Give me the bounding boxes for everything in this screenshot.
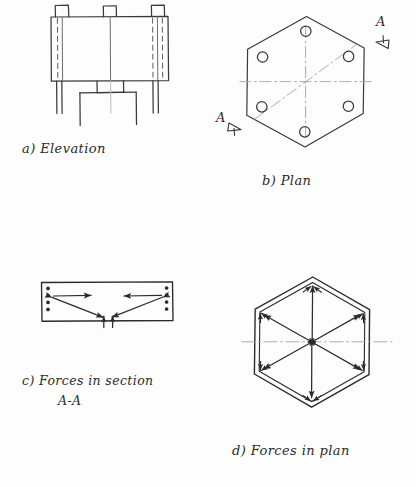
section-bolt-dot bbox=[46, 287, 50, 291]
section-bolt-dots-right bbox=[165, 286, 169, 311]
section-bolt-dot bbox=[165, 307, 169, 311]
section-force-arrow-horizontal-left bbox=[54, 295, 92, 296]
caption-figure-b: b) Plan bbox=[262, 172, 311, 191]
caption-figure-a: a) Elevation bbox=[22, 140, 106, 159]
plan-force-arrow-lower-right bbox=[315, 344, 360, 370]
section-bolt-dot bbox=[46, 294, 50, 298]
plan-force-arrow-upper-left bbox=[264, 315, 309, 340]
section-bolt-dot bbox=[165, 293, 169, 297]
plan-force-edge-arrow-bottom-left bbox=[303, 395, 311, 401]
sketch-canvas bbox=[0, 0, 416, 487]
figure-a-elevation bbox=[51, 5, 169, 125]
plan-force-edge-arrow-ul-up bbox=[261, 313, 269, 319]
caption-figure-c-line-1: c) Forces in section bbox=[22, 372, 154, 390]
elevation-stub-shelf bbox=[80, 92, 136, 93]
figure-d-plan-forces bbox=[242, 277, 392, 407]
section-mark-upper-right-arrow bbox=[376, 40, 389, 48]
section-force-arrow-diagonal-left bbox=[52, 297, 103, 317]
plan-force-edge-arrow-bottom-right bbox=[313, 396, 321, 402]
section-force-arrow-horizontal-right bbox=[124, 295, 162, 296]
caption-figure-c-line-2: A-A bbox=[58, 392, 81, 410]
plan-force-edge-arrow-lr-down bbox=[354, 365, 362, 370]
figure-b-plan bbox=[228, 17, 389, 148]
plan-force-edge-arrow-top-right bbox=[314, 287, 322, 293]
plan-bolt-hole-lower-right bbox=[343, 101, 353, 111]
caption-figure-d: d) Forces in plan bbox=[232, 442, 350, 461]
plan-force-edge-arrow-ur-up bbox=[355, 314, 363, 319]
figure-c-section-forces bbox=[42, 282, 174, 328]
section-mark-lower-left-tick bbox=[234, 128, 235, 135]
plan-force-arrow-upper-right bbox=[315, 315, 360, 341]
section-label-a-upper-right: A bbox=[376, 14, 385, 29]
elevation-tab-center bbox=[103, 6, 116, 17]
plan-force-edge-arrow-ll-down bbox=[261, 365, 269, 371]
section-bolt-dot bbox=[165, 300, 169, 304]
plan-bolt-hole-bottom bbox=[300, 127, 310, 137]
section-bolt-dot bbox=[165, 286, 169, 290]
section-bolt-dot bbox=[46, 308, 50, 312]
drawing-sheet: a) Elevation b) Plan c) Forces in sectio… bbox=[0, 0, 416, 487]
section-bolt-dot bbox=[46, 301, 50, 305]
section-label-a-lower-left: A bbox=[216, 110, 225, 125]
plan-bolt-hole-lower-left bbox=[257, 102, 267, 112]
section-force-arrow-diagonal-right bbox=[112, 297, 163, 317]
elevation-tab-right bbox=[151, 5, 164, 16]
plan-bolt-hole-upper-right bbox=[343, 51, 353, 61]
plan-force-arrow-lower-left bbox=[264, 344, 309, 369]
elevation-tab-left bbox=[55, 5, 69, 17]
section-mark-upper-right-tick bbox=[383, 36, 384, 43]
plan-bolt-hole-upper-left bbox=[257, 52, 267, 62]
section-bolt-dots-left bbox=[46, 287, 50, 312]
